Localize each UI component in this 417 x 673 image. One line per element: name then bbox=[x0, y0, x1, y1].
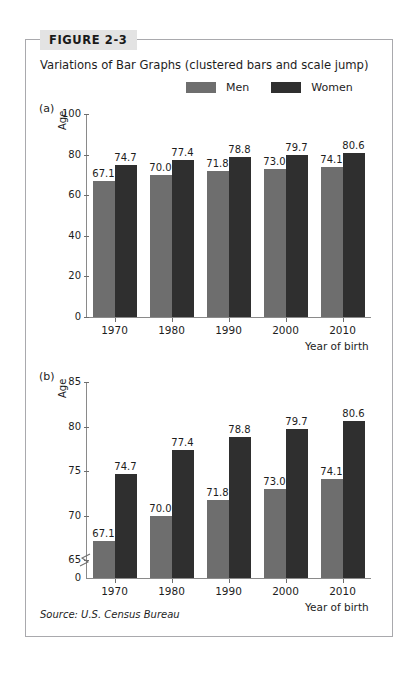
x-axis-tick bbox=[115, 579, 116, 583]
y-axis-tick-label: 70 bbox=[57, 510, 81, 521]
bar-value-label: 77.4 bbox=[166, 437, 200, 448]
y-axis-line bbox=[86, 382, 87, 578]
y-axis-tick-label: 0 bbox=[57, 572, 81, 583]
y-axis-tick-label: 85 bbox=[57, 376, 81, 387]
bar-value-label: 79.7 bbox=[280, 416, 314, 427]
chart-panel-b: (b) Age 0657075808567.174.7197070.077.41… bbox=[26, 370, 394, 620]
x-axis-tick-label: 2010 bbox=[323, 585, 363, 597]
x-axis-tick-label: 1980 bbox=[152, 324, 192, 336]
x-axis-tick-label: 1980 bbox=[152, 585, 192, 597]
panel-label-a: (a) bbox=[39, 102, 54, 115]
legend-label-men: Men bbox=[226, 81, 249, 94]
y-axis-tick-label: 80 bbox=[57, 421, 81, 432]
bar-women-1970 bbox=[115, 474, 137, 578]
x-axis-tick bbox=[172, 579, 173, 583]
bar-value-label: 80.6 bbox=[337, 408, 371, 419]
y-axis-tick-label: 75 bbox=[57, 465, 81, 476]
chart-legend: Men Women bbox=[186, 81, 353, 94]
bar-men-1990 bbox=[207, 171, 229, 317]
plot-area-a: 02040608010067.174.7197070.077.4198071.8… bbox=[86, 114, 371, 317]
x-axis-tick-label: 1990 bbox=[209, 585, 249, 597]
bar-men-1970 bbox=[93, 181, 115, 317]
bar-women-1970 bbox=[115, 165, 137, 317]
legend-label-women: Women bbox=[311, 81, 352, 94]
x-axis-tick-label: 2010 bbox=[323, 324, 363, 336]
chart-panel-a: (a) Age 02040608010067.174.7197070.077.4… bbox=[26, 102, 394, 367]
x-axis-tick-label: 1970 bbox=[95, 585, 135, 597]
x-axis-tick-label: 1990 bbox=[209, 324, 249, 336]
bar-value-label: 80.6 bbox=[337, 140, 371, 151]
x-axis-title: Year of birth bbox=[305, 601, 369, 613]
bar-women-1980 bbox=[172, 450, 194, 578]
bar-women-1990 bbox=[229, 157, 251, 317]
x-axis-tick bbox=[286, 318, 287, 322]
y-axis-line bbox=[86, 114, 87, 317]
source-note: Source: U.S. Census Bureau bbox=[40, 609, 180, 620]
bar-value-label: 74.7 bbox=[109, 461, 143, 472]
y-axis-tick bbox=[84, 114, 89, 115]
x-axis-tick bbox=[343, 318, 344, 322]
bar-men-2010 bbox=[321, 479, 343, 578]
x-axis-tick-label: 1970 bbox=[95, 324, 135, 336]
bar-men-2000 bbox=[264, 169, 286, 317]
y-axis-tick bbox=[84, 382, 89, 383]
x-axis-tick bbox=[115, 318, 116, 322]
bar-women-1980 bbox=[172, 160, 194, 317]
bar-women-1990 bbox=[229, 437, 251, 578]
x-axis-tick bbox=[286, 579, 287, 583]
legend-swatch-men-icon bbox=[186, 82, 216, 93]
bar-men-1990 bbox=[207, 500, 229, 578]
legend-entry-women: Women bbox=[271, 81, 352, 94]
bar-women-2010 bbox=[343, 421, 365, 578]
figure-number-label: FIGURE 2-3 bbox=[40, 30, 137, 50]
x-axis-tick bbox=[172, 318, 173, 322]
legend-swatch-women-icon bbox=[271, 82, 301, 93]
y-axis-tick bbox=[84, 471, 89, 472]
figure-box: FIGURE 2-3 Variations of Bar Graphs (clu… bbox=[25, 39, 393, 637]
plot-area-b: 0657075808567.174.7197070.077.4198071.87… bbox=[86, 382, 371, 578]
y-axis-tick bbox=[84, 236, 89, 237]
x-axis-tick-label: 2000 bbox=[266, 585, 306, 597]
y-axis-tick bbox=[84, 195, 89, 196]
x-axis-tick bbox=[229, 318, 230, 322]
bar-men-2010 bbox=[321, 167, 343, 317]
y-axis-tick-label: 80 bbox=[57, 149, 81, 160]
bar-value-label: 78.8 bbox=[223, 144, 257, 155]
panel-label-b: (b) bbox=[39, 370, 55, 383]
y-axis-tick bbox=[84, 317, 89, 318]
figure-title: Variations of Bar Graphs (clustered bars… bbox=[40, 58, 368, 72]
legend-entry-men: Men bbox=[186, 81, 249, 94]
bar-men-1970 bbox=[93, 541, 115, 578]
bar-women-2010 bbox=[343, 153, 365, 317]
bar-men-1980 bbox=[150, 516, 172, 578]
x-axis-tick bbox=[343, 579, 344, 583]
y-axis-tick bbox=[84, 276, 89, 277]
y-axis-tick bbox=[84, 155, 89, 156]
y-axis-tick-label: 60 bbox=[57, 189, 81, 200]
bar-value-label: 79.7 bbox=[280, 142, 314, 153]
y-axis-tick-label: 20 bbox=[57, 270, 81, 281]
bar-value-label: 77.4 bbox=[166, 147, 200, 158]
y-axis-tick bbox=[84, 427, 89, 428]
y-axis-tick bbox=[84, 516, 89, 517]
y-axis-tick-label: 100 bbox=[57, 108, 81, 119]
bar-men-1980 bbox=[150, 175, 172, 317]
y-axis-tick-label: 0 bbox=[57, 311, 81, 322]
x-axis-title: Year of birth bbox=[305, 340, 369, 352]
y-axis-tick-label: 40 bbox=[57, 230, 81, 241]
bar-men-2000 bbox=[264, 489, 286, 578]
y-axis-tick-label: 65 bbox=[57, 554, 81, 565]
x-axis-tick bbox=[229, 579, 230, 583]
bar-value-label: 78.8 bbox=[223, 424, 257, 435]
bar-women-2000 bbox=[286, 429, 308, 578]
bar-women-2000 bbox=[286, 155, 308, 317]
bar-value-label: 74.7 bbox=[109, 152, 143, 163]
x-axis-tick-label: 2000 bbox=[266, 324, 306, 336]
